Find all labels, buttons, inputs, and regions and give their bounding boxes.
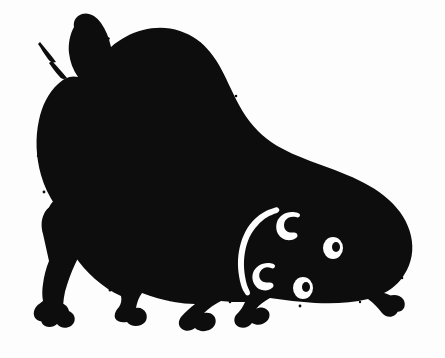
artwork-canvas: Dog in Play Bow Black silhouette of a do… bbox=[0, 0, 445, 358]
pupil-upper bbox=[332, 242, 340, 252]
pupil-lower bbox=[302, 282, 310, 292]
dog-silhouette-illustration bbox=[0, 0, 445, 358]
